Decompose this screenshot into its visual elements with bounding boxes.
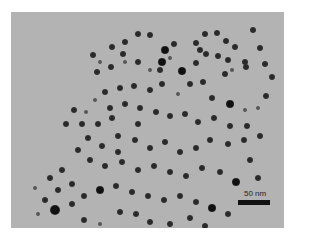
nanoparticle bbox=[250, 27, 256, 33]
nanoparticle bbox=[187, 81, 193, 87]
nanoparticle bbox=[232, 178, 240, 186]
nanoparticle bbox=[161, 46, 169, 54]
nanoparticle bbox=[225, 141, 231, 147]
nanoparticle bbox=[178, 67, 186, 75]
nanoparticle bbox=[81, 217, 87, 223]
nanoparticle bbox=[223, 38, 229, 44]
nanoparticle bbox=[87, 157, 93, 163]
nanoparticle bbox=[214, 30, 220, 36]
nanoparticle bbox=[120, 51, 126, 57]
nanoparticle bbox=[102, 163, 108, 169]
nanoparticle bbox=[99, 143, 105, 149]
nanoparticle bbox=[109, 44, 115, 50]
nanoparticle bbox=[108, 64, 114, 70]
nanoparticle bbox=[217, 169, 223, 175]
nanoparticle bbox=[69, 201, 75, 207]
nanoparticle bbox=[157, 67, 163, 73]
nanoparticle bbox=[135, 167, 141, 173]
nanoparticle bbox=[132, 137, 138, 143]
nanoparticle bbox=[158, 58, 166, 66]
nanoparticle bbox=[247, 157, 253, 163]
nanoparticle bbox=[244, 123, 250, 129]
nanoparticle bbox=[85, 135, 91, 141]
nanoparticle bbox=[183, 173, 189, 179]
nanoparticle bbox=[147, 145, 153, 151]
nanoparticle bbox=[123, 60, 127, 64]
nanoparticle bbox=[98, 60, 102, 64]
nanoparticle bbox=[133, 211, 139, 217]
nanoparticle bbox=[167, 169, 173, 175]
nanoparticle bbox=[153, 109, 159, 115]
nanoparticle bbox=[168, 56, 172, 60]
nanoparticle bbox=[161, 197, 167, 203]
nanoparticle bbox=[243, 64, 249, 70]
nanoparticle bbox=[202, 223, 208, 228]
nanoparticle bbox=[148, 68, 152, 72]
nanoparticle bbox=[90, 52, 96, 58]
nanoparticle bbox=[202, 31, 208, 37]
nanoparticle bbox=[263, 93, 269, 99]
nanoparticle bbox=[69, 181, 75, 187]
nanoparticle bbox=[200, 79, 206, 85]
nanoparticle bbox=[63, 121, 69, 127]
nanoparticle bbox=[137, 105, 143, 111]
nanoparticle bbox=[171, 41, 177, 47]
nanoparticle bbox=[145, 193, 151, 199]
nanoparticle bbox=[94, 69, 100, 75]
nanoparticle bbox=[75, 147, 81, 153]
nanoparticle bbox=[241, 137, 247, 143]
nanoparticle bbox=[269, 74, 275, 80]
nanoparticle bbox=[226, 100, 234, 108]
nanoparticle bbox=[193, 60, 199, 66]
nanoparticle bbox=[177, 193, 183, 199]
nanoparticle bbox=[203, 51, 209, 57]
nanoparticle bbox=[230, 68, 234, 72]
nanoparticle bbox=[262, 61, 268, 67]
nanoparticle bbox=[176, 92, 180, 96]
nanoparticle bbox=[93, 98, 97, 102]
nanoparticle bbox=[135, 121, 141, 127]
nanoparticle bbox=[50, 205, 60, 215]
nanoparticle bbox=[79, 121, 85, 127]
nanoparticle bbox=[122, 101, 128, 107]
nanoparticle bbox=[42, 197, 48, 203]
nanoparticle bbox=[95, 121, 101, 127]
nanoparticle bbox=[199, 165, 205, 171]
nanoparticle bbox=[98, 222, 102, 226]
nanoparticle bbox=[117, 85, 123, 91]
nanoparticle bbox=[131, 83, 137, 89]
nanoparticle bbox=[107, 105, 113, 111]
nanoparticle bbox=[243, 108, 247, 112]
nanoparticle bbox=[147, 32, 153, 38]
nanoparticle bbox=[159, 81, 165, 87]
nanoparticle bbox=[177, 149, 183, 155]
nanoparticle bbox=[225, 211, 231, 217]
nanoparticle bbox=[208, 204, 216, 212]
nanoparticle bbox=[115, 133, 121, 139]
nanoparticle bbox=[256, 106, 260, 110]
nanoparticle bbox=[197, 47, 203, 53]
nanoparticle bbox=[71, 107, 77, 113]
nanoparticle bbox=[135, 59, 141, 65]
nanoparticle bbox=[147, 87, 153, 93]
nanoparticle bbox=[59, 167, 65, 173]
nanoparticle bbox=[151, 163, 157, 169]
nanoparticle bbox=[135, 31, 141, 37]
nanoparticle bbox=[119, 159, 125, 165]
nanoparticle bbox=[147, 219, 153, 225]
nanoparticle bbox=[227, 123, 233, 129]
nanoparticle bbox=[167, 221, 173, 227]
nanoparticle bbox=[187, 215, 193, 221]
nanoparticle bbox=[113, 183, 119, 189]
nanoparticle bbox=[225, 57, 231, 63]
nanoparticle bbox=[47, 175, 53, 181]
nanoparticle bbox=[215, 53, 221, 59]
nanoparticle bbox=[102, 89, 108, 95]
nanoparticle bbox=[195, 119, 201, 125]
nanoparticle bbox=[222, 71, 228, 77]
nanoparticle bbox=[257, 45, 263, 51]
nanoparticle bbox=[211, 115, 217, 121]
nanoparticle bbox=[115, 149, 121, 155]
nanoparticle bbox=[182, 111, 188, 117]
scale-bar-label: 50 nm bbox=[244, 189, 266, 198]
